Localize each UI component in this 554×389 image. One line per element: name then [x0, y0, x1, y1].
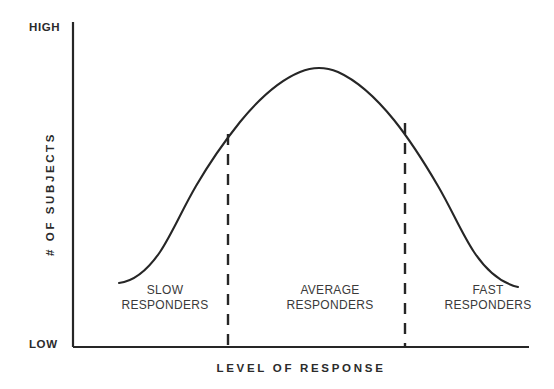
chart-plot-area — [0, 0, 554, 389]
region-label-fast-responders: FAST RESPONDERS — [428, 283, 548, 313]
region-label-average-responders: AVERAGE RESPONDERS — [262, 283, 398, 313]
region-label-slow-line1: SLOW — [147, 283, 184, 297]
y-axis-tick-high: HIGH — [29, 21, 60, 33]
region-label-fast-line2: RESPONDERS — [428, 298, 548, 313]
region-label-average-line2: RESPONDERS — [262, 298, 398, 313]
region-label-fast-line1: FAST — [472, 283, 503, 297]
bell-curve-chart: HIGH LOW # OF SUBJECTS LEVEL OF RESPONSE… — [0, 0, 554, 389]
region-label-slow-responders: SLOW RESPONDERS — [105, 283, 225, 313]
bell-curve-path — [119, 68, 518, 287]
x-axis-title: LEVEL OF RESPONSE — [73, 362, 529, 374]
y-axis-tick-low: LOW — [29, 338, 58, 350]
region-label-average-line1: AVERAGE — [300, 283, 359, 297]
region-label-slow-line2: RESPONDERS — [105, 298, 225, 313]
y-axis-title: # OF SUBJECTS — [44, 99, 56, 289]
